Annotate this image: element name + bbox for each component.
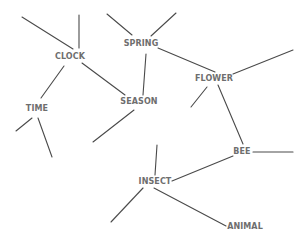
node-season[interactable]: SEASON bbox=[120, 98, 157, 106]
edge-spring-season bbox=[143, 54, 146, 95]
node-bee[interactable]: BEE bbox=[233, 148, 250, 156]
node-animal[interactable]: ANIMAL bbox=[227, 223, 263, 231]
edge-time-stub bbox=[16, 118, 32, 131]
edge-clock-stub bbox=[22, 17, 73, 49]
edge-insect-stub bbox=[155, 145, 157, 175]
edge-flower-stub bbox=[233, 50, 293, 74]
node-insect[interactable]: INSECT bbox=[139, 178, 172, 186]
edge-flower-bee bbox=[218, 85, 243, 144]
edge-season-stub bbox=[93, 110, 134, 142]
node-time[interactable]: TIME bbox=[26, 105, 48, 113]
node-flower[interactable]: FLOWER bbox=[195, 75, 233, 83]
edge-flower-stub bbox=[191, 87, 207, 107]
edge-clock-time bbox=[41, 66, 64, 98]
edge-spring-stub bbox=[107, 14, 132, 35]
edge-bee-insect bbox=[172, 156, 233, 181]
edge-time-stub bbox=[38, 118, 52, 157]
edge-insect-stub bbox=[111, 188, 143, 222]
edge-clock-season bbox=[82, 63, 125, 95]
node-clock[interactable]: CLOCK bbox=[55, 53, 85, 61]
edge-spring-stub bbox=[151, 13, 176, 36]
edge-insect-animal bbox=[154, 188, 226, 226]
diagram-canvas bbox=[0, 0, 306, 241]
node-spring[interactable]: SPRING bbox=[124, 40, 159, 48]
edge-spring-flower bbox=[158, 48, 215, 72]
